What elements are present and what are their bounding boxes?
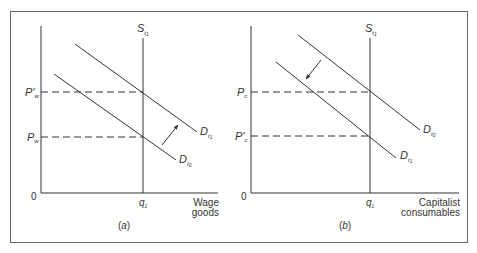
price-high-label: P'w	[25, 86, 39, 99]
price-high-label: Pc	[237, 86, 247, 99]
demand-curve-new	[276, 62, 396, 158]
demand-old-label: Dt0	[179, 153, 192, 168]
supply-label: St1	[365, 22, 377, 37]
origin-label: 0	[31, 191, 37, 202]
shift-arrow	[306, 60, 321, 79]
panel-caption: (b)	[339, 220, 351, 231]
demand-curve-new	[75, 44, 197, 132]
quantity-label: q1	[366, 197, 375, 209]
price-low-label: P'c	[235, 130, 247, 143]
panel-caption: (a)	[118, 220, 130, 231]
price-low-label: Pw	[27, 131, 39, 144]
panel-b-labels: 0 St1 Pc P'c Dt0 Dt1 q1 Capitalist consu…	[235, 22, 460, 231]
origin-label: 0	[241, 191, 247, 202]
panel-a-labels: 0 St1 P'w Pw Dt1 Dt0 q1 Wage goods (a)	[25, 22, 219, 231]
supply-demand-figure: 0 St1 P'w Pw Dt1 Dt0 q1 Wage goods (a) 0…	[0, 0, 477, 253]
figure-border	[11, 12, 468, 243]
panel-b	[251, 26, 459, 193]
supply-label: St1	[137, 22, 149, 37]
quantity-label: q1	[139, 197, 148, 209]
shift-arrow	[162, 125, 178, 145]
demand-curve-old	[54, 74, 176, 160]
panel-a	[41, 26, 218, 193]
x-axis-label-line2: consumables	[401, 207, 460, 218]
demand-curve-old	[298, 35, 420, 130]
x-axis-label-line2: goods	[192, 207, 219, 218]
demand-new-label: Dt1	[400, 149, 413, 164]
demand-old-label: Dt0	[423, 123, 436, 138]
demand-new-label: Dt1	[200, 125, 213, 140]
